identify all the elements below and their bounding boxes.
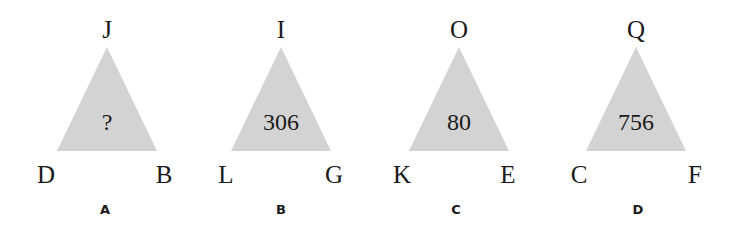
top-letter: Q [621, 17, 651, 42]
center-value: 756 [586, 110, 686, 134]
panel-label: D [623, 203, 653, 217]
triangle [586, 47, 686, 151]
panel-d: Q 756 C F D [0, 0, 735, 231]
right-letter: F [680, 162, 710, 187]
left-letter: C [564, 162, 594, 187]
